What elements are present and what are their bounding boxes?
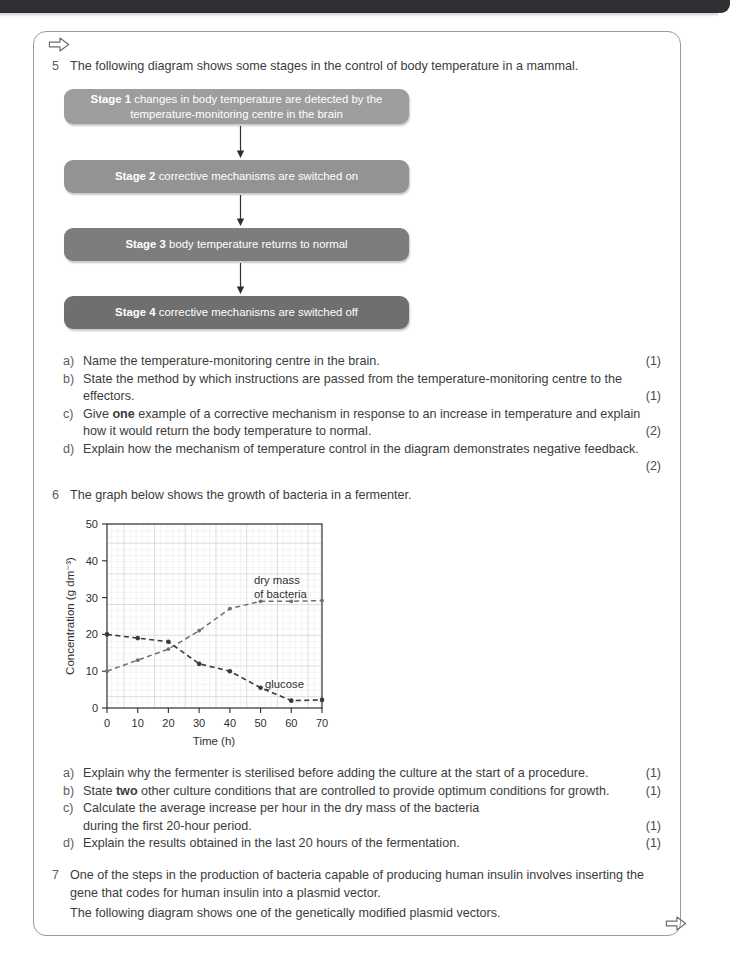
y-tick-50: 50 <box>86 518 98 530</box>
y-tick-0: 0 <box>92 702 98 714</box>
stage-4-text: corrective mechanisms are switched off <box>156 306 358 318</box>
x-tick-40: 40 <box>224 717 236 729</box>
flowchart-stage-2: Stage 2 corrective mechanisms are switch… <box>64 160 409 193</box>
q6-part-a-text: Explain why the fermenter is sterilised … <box>83 765 661 783</box>
chart-y-axis-label: Concentration (g dm⁻³) <box>64 557 76 675</box>
stage-2-text: corrective mechanisms are switched on <box>155 170 358 182</box>
chart-point <box>258 685 263 690</box>
q6-part-a-marks: (1) <box>635 765 661 783</box>
chart-y-axis: 50 40 30 20 10 0 <box>86 518 107 714</box>
chart-annotation-glucose: glucose <box>265 678 304 690</box>
x-tick-70: 70 <box>316 717 328 729</box>
flowchart-stage-1: Stage 1 changes in body temperature are … <box>64 89 409 124</box>
chart-point <box>197 629 201 633</box>
q6-part-d-letter: d) <box>63 835 83 853</box>
chart-point <box>105 669 109 673</box>
chart-point <box>320 698 325 703</box>
q6-part-b-text-pre: State <box>83 784 116 798</box>
question-5-parts: a) Name the temperature-monitoring centr… <box>63 353 661 458</box>
part-b-letter: b) <box>63 371 83 389</box>
flowchart-stage-3: Stage 3 body temperature returns to norm… <box>64 228 409 261</box>
y-tick-10: 10 <box>86 665 98 677</box>
question-6-stem: The graph below shows the growth of bact… <box>70 487 412 504</box>
question-6-part-a: a) Explain why the fermenter is sterilis… <box>63 765 661 783</box>
question-7-follow-text: The following diagram shows one of the g… <box>70 904 650 922</box>
flow-arrow-2-icon <box>235 195 246 227</box>
question-6-number: 6 <box>52 487 70 504</box>
x-tick-60: 60 <box>285 717 297 729</box>
part-a-letter: a) <box>63 353 83 371</box>
chart-point <box>320 599 324 603</box>
x-tick-50: 50 <box>254 717 266 729</box>
question-6-stem-row: 6 The graph below shows the growth of ba… <box>52 487 652 504</box>
part-b-text: State the method by which instructions a… <box>83 371 661 406</box>
annotation-dry-mass-line1: dry mass <box>254 574 300 586</box>
question-5-part-a: a) Name the temperature-monitoring centr… <box>63 353 661 371</box>
y-tick-30: 30 <box>86 592 98 604</box>
stage-1-text: changes in body temperature are detected… <box>130 93 382 120</box>
chart-point <box>105 632 110 637</box>
x-tick-0: 0 <box>104 717 110 729</box>
temperature-control-flowchart: Stage 1 changes in body temperature are … <box>0 0 730 350</box>
question-6-parts: a) Explain why the fermenter is sterilis… <box>63 765 661 853</box>
q6-part-b-letter: b) <box>63 783 83 801</box>
chart-point <box>289 698 294 703</box>
question-5-part-d: d) Explain how the mechanism of temperat… <box>63 441 661 459</box>
q6-part-d-text: Explain the results obtained in the last… <box>83 835 661 853</box>
part-b-marks: (1) <box>635 388 661 406</box>
q6-part-c-text: Calculate the average increase per hour … <box>83 800 521 835</box>
x-tick-20: 20 <box>162 717 174 729</box>
chart-point <box>136 658 140 662</box>
stage-4-label: Stage 4 <box>115 306 156 318</box>
q6-part-b-text-post: other culture conditions that are contro… <box>138 784 610 798</box>
q6-part-b-text-bold: two <box>116 784 138 798</box>
question-7-number: 7 <box>52 866 70 884</box>
bacteria-growth-chart: 50 40 30 20 10 0 Concentration (g dm⁻³) … <box>62 512 422 752</box>
part-c-text: Give one example of a corrective mechani… <box>83 406 661 441</box>
question-5-part-c: c) Give one example of a corrective mech… <box>63 406 661 441</box>
question-7-stem-row: 7 One of the steps in the production of … <box>52 866 662 902</box>
part-c-marks: (2) <box>635 423 661 441</box>
chart-x-axis-label: Time (h) <box>193 735 236 747</box>
question-6-part-c: c) Calculate the average increase per ho… <box>63 800 661 835</box>
part-c-letter: c) <box>63 406 83 424</box>
chart-point <box>166 639 171 644</box>
y-tick-20: 20 <box>86 628 98 640</box>
q6-part-d-marks: (1) <box>635 835 661 853</box>
chart-point <box>135 636 140 641</box>
part-a-marks: (1) <box>635 353 661 371</box>
next-page-arrow-bottom-icon[interactable] <box>665 915 687 932</box>
stage-1-label: Stage 1 <box>91 93 132 105</box>
stage-3-label: Stage 3 <box>125 238 166 250</box>
part-c-text-pre: Give <box>83 407 112 421</box>
chart-point <box>228 607 232 611</box>
x-tick-10: 10 <box>132 717 144 729</box>
y-tick-40: 40 <box>86 555 98 567</box>
part-d-text: Explain how the mechanism of temperature… <box>83 441 661 459</box>
flow-arrow-3-icon <box>235 263 246 295</box>
q6-part-c-marks: (1) <box>635 818 661 836</box>
stage-3-text: body temperature returns to normal <box>166 238 348 250</box>
question-6-part-b: b) State two other culture conditions th… <box>63 783 661 801</box>
chart-point <box>228 669 233 674</box>
q6-part-a-letter: a) <box>63 765 83 783</box>
part-d-letter: d) <box>63 441 83 459</box>
q6-part-c-letter: c) <box>63 800 83 818</box>
chart-point <box>197 662 202 667</box>
annotation-glucose: glucose <box>265 678 304 690</box>
x-tick-30: 30 <box>193 717 205 729</box>
stage-2-label: Stage 2 <box>115 170 156 182</box>
q6-part-b-marks: (1) <box>635 783 661 801</box>
question-5-part-b: b) State the method by which instruction… <box>63 371 661 406</box>
part-a-text: Name the temperature-monitoring centre i… <box>83 353 661 371</box>
part-d-marks: (2) <box>635 458 661 476</box>
flowchart-stage-4: Stage 4 corrective mechanisms are switch… <box>64 296 409 329</box>
part-c-text-post: example of a corrective mechanism in res… <box>83 407 640 439</box>
flow-arrow-1-icon <box>235 126 246 159</box>
q6-part-b-text: State two other culture conditions that … <box>83 783 661 801</box>
annotation-dry-mass-line2: of bacteria <box>254 588 307 600</box>
chart-point <box>167 647 171 651</box>
question-7-stem: One of the steps in the production of ba… <box>70 866 662 902</box>
chart-x-axis: 0 10 20 30 40 50 60 70 <box>104 708 328 729</box>
part-c-text-bold: one <box>112 407 134 421</box>
